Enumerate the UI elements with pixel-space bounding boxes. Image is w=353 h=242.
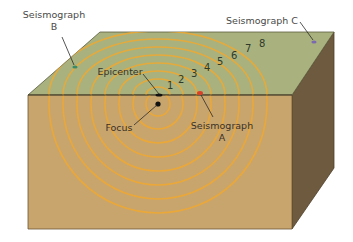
earthquake-block-diagram: 1 2 3 4 5 6 7 8 Seismograph B Seismograp… [0, 0, 353, 242]
seismograph-b-label-letter: B [51, 21, 58, 32]
seismograph-a-label: Seismograph [191, 120, 253, 131]
seismograph-c-label: Seismograph C [226, 15, 298, 26]
seismograph-b-label: Seismograph [23, 9, 85, 20]
epicenter-label: Epicenter [97, 66, 142, 77]
wave-number-5: 5 [217, 56, 223, 67]
focus-label: Focus [105, 122, 132, 133]
wave-number-6: 6 [231, 50, 237, 61]
seismograph-c-marker [311, 40, 316, 43]
seismograph-a-label-letter: A [219, 132, 226, 143]
top-face [28, 32, 334, 95]
wave-number-3: 3 [191, 68, 197, 79]
wave-number-1: 1 [167, 80, 173, 91]
seismograph-b-marker [72, 65, 77, 68]
wave-number-4: 4 [204, 62, 210, 73]
wave-number-2: 2 [178, 74, 184, 85]
seismograph-a-marker [197, 91, 203, 95]
wave-number-8: 8 [259, 38, 265, 49]
wave-number-7: 7 [245, 43, 251, 54]
